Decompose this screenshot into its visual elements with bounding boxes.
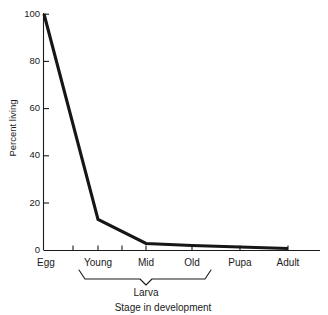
larva-group-brace [79, 270, 211, 285]
x-axis-tick-labels: Egg Young Mid Old Pupa Adult [37, 257, 300, 268]
line-chart-svg: Percent living 100 80 60 40 20 0 [0, 0, 328, 315]
percent-living-line [44, 14, 288, 249]
y-tick-label-80: 80 [29, 55, 40, 66]
y-tick-label-40: 40 [29, 149, 40, 160]
larva-group-label: Larva [133, 287, 158, 298]
x-tick-label-old: Old [184, 257, 200, 268]
x-tick-label-pupa: Pupa [228, 257, 252, 268]
y-axis-ticks [44, 14, 50, 203]
y-axis-tick-labels: 100 80 60 40 20 0 [24, 8, 40, 255]
y-axis-title-group: Percent living [7, 99, 18, 156]
y-axis-title: Percent living [7, 99, 18, 156]
y-tick-label-0: 0 [35, 244, 40, 255]
chart-figure: Percent living 100 80 60 40 20 0 [0, 0, 328, 315]
y-tick-label-20: 20 [29, 197, 40, 208]
y-tick-label-100: 100 [24, 8, 40, 19]
x-tick-label-adult: Adult [277, 257, 300, 268]
y-tick-label-60: 60 [29, 102, 40, 113]
x-tick-label-young: Young [84, 257, 112, 268]
x-tick-label-egg: Egg [37, 257, 55, 268]
x-tick-label-mid: Mid [138, 257, 154, 268]
x-axis-title: Stage in development [115, 302, 212, 313]
